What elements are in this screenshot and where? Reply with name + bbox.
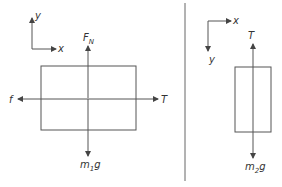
friction-force-label: f: [9, 94, 14, 105]
tension-force-label: T: [161, 94, 168, 105]
weight-m2-label: m2g: [245, 161, 266, 175]
left-axes: y x: [32, 10, 64, 54]
left-forces: FN f T m1g: [9, 32, 168, 173]
free-body-diagram: y x FN f T m1g x y T m2g: [0, 0, 282, 187]
tension-label: T: [248, 30, 255, 41]
x-axis-label: x: [232, 15, 239, 26]
x-axis-label: x: [57, 43, 64, 54]
y-axis-label: y: [208, 54, 216, 65]
right-axes: x y: [208, 15, 239, 65]
right-forces: T m2g: [245, 30, 266, 175]
normal-force-label: FN: [83, 32, 95, 46]
y-axis-label: y: [34, 10, 42, 21]
weight-m1-label: m1g: [80, 159, 101, 173]
